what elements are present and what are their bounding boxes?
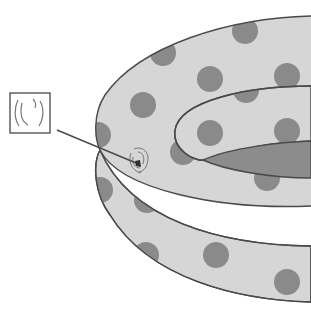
puncture-detail-icon	[10, 93, 50, 133]
pool-diagram	[0, 0, 311, 312]
top-ring	[85, 16, 311, 207]
